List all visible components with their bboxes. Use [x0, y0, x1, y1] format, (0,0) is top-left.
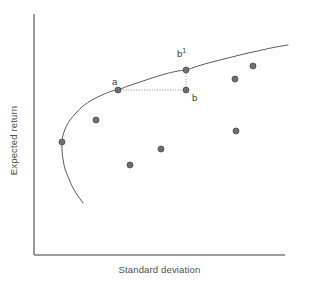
data-point-asset-5 [250, 63, 256, 69]
axes-group [34, 14, 285, 255]
data-points-group [59, 63, 256, 168]
b-prime-superscript: 1 [182, 47, 186, 54]
point-label-b: b [192, 92, 197, 103]
x-axis-label: Standard deviation [34, 264, 285, 275]
point-label-b-prime: b1 [177, 48, 186, 59]
point-label-a: a [112, 76, 117, 87]
data-point-a [115, 87, 121, 93]
data-point-min-variance [59, 139, 65, 145]
data-point-asset-2 [127, 162, 133, 168]
y-axis-label: Expected return [7, 0, 21, 281]
plot-canvas [0, 0, 310, 281]
data-point-b [183, 87, 189, 93]
data-point-b-prime [183, 67, 189, 73]
data-point-asset-6 [233, 128, 239, 134]
data-point-asset-3 [158, 146, 164, 152]
data-point-asset-4 [232, 76, 238, 82]
connector-lines-group [118, 70, 186, 90]
data-point-asset-1 [93, 117, 99, 123]
efficient-frontier-figure: Expected return Standard deviation a b b… [0, 0, 310, 281]
